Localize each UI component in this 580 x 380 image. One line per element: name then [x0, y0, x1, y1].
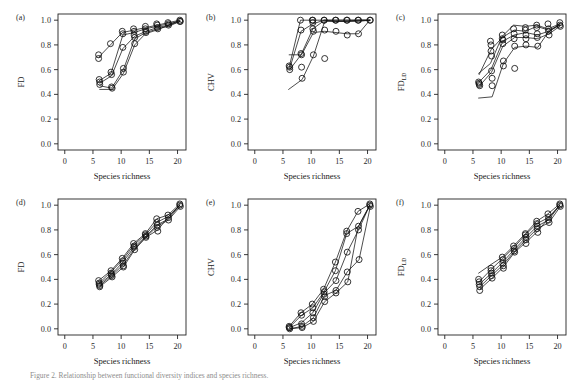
- y-tick-label: 0.2: [421, 115, 431, 124]
- chart-panel-b: (b)0.00.20.40.60.81.005101520Species ric…: [190, 0, 383, 189]
- x-axis-title: Species richness: [284, 171, 341, 181]
- x-axis-title: Species richness: [474, 356, 531, 366]
- y-tick-label: 0.6: [41, 66, 51, 75]
- data-point: [488, 42, 494, 48]
- replicate-line: [289, 20, 370, 55]
- y-tick-label: 1.0: [41, 201, 51, 210]
- x-tick-label: 10: [497, 157, 505, 166]
- x-tick-label: 10: [307, 342, 315, 351]
- data-point: [512, 65, 518, 71]
- y-tick-label: 0.8: [231, 226, 241, 235]
- x-tick-label: 20: [173, 342, 181, 351]
- data-point: [489, 83, 495, 89]
- y-tick-label: 0.4: [41, 275, 51, 284]
- y-axis-title: FD: [16, 77, 26, 88]
- y-tick-label: 0.0: [231, 140, 241, 149]
- y-tick-label: 0.0: [421, 325, 431, 334]
- replicate-line: [290, 206, 371, 328]
- panel-letter: (f): [396, 198, 404, 207]
- replicate-line: [100, 21, 180, 88]
- y-tick-label: 1.0: [41, 16, 51, 25]
- x-tick-label: 15: [525, 157, 533, 166]
- y-tick-label: 0.8: [231, 41, 241, 50]
- x-tick-label: 20: [553, 157, 561, 166]
- y-axis-title: FD: [16, 262, 26, 273]
- x-tick-label: 20: [553, 342, 561, 351]
- y-tick-label: 0.0: [41, 325, 51, 334]
- x-tick-label: 5: [91, 157, 95, 166]
- x-tick-label: 5: [91, 342, 95, 351]
- x-tick-label: 10: [117, 342, 125, 351]
- data-point: [523, 42, 529, 48]
- y-tick-label: 0.0: [231, 325, 241, 334]
- panel-letter: (a): [16, 13, 25, 22]
- data-point: [523, 241, 529, 247]
- y-axis-title: FDLD: [396, 258, 407, 276]
- x-tick-label: 5: [471, 342, 475, 351]
- plot-frame: [438, 199, 566, 335]
- x-tick-label: 20: [173, 157, 181, 166]
- x-tick-label: 15: [145, 157, 153, 166]
- y-tick-label: 0.0: [421, 140, 431, 149]
- data-point: [535, 43, 541, 49]
- y-tick-label: 0.2: [41, 300, 51, 309]
- x-tick-label: 5: [471, 157, 475, 166]
- replicate-line: [480, 26, 560, 85]
- y-tick-label: 0.6: [41, 251, 51, 260]
- x-axis-title: Species richness: [94, 356, 151, 366]
- y-tick-label: 0.4: [231, 90, 241, 99]
- x-axis-title: Species richness: [94, 171, 151, 181]
- y-tick-label: 1.0: [421, 201, 431, 210]
- data-point: [523, 36, 529, 42]
- data-point: [489, 75, 495, 81]
- y-tick-label: 0.4: [41, 90, 51, 99]
- y-tick-label: 0.4: [231, 275, 241, 284]
- y-tick-label: 0.8: [421, 226, 431, 235]
- y-tick-label: 1.0: [231, 201, 241, 210]
- replicate-line: [289, 204, 370, 326]
- x-tick-label: 15: [335, 157, 343, 166]
- x-tick-label: 0: [253, 157, 257, 166]
- y-tick-label: 0.8: [41, 41, 51, 50]
- chart-panel-e: (e)0.00.20.40.60.81.005101520Species ric…: [190, 185, 383, 374]
- x-axis-title: Species richness: [474, 171, 531, 181]
- y-tick-label: 0.4: [421, 275, 431, 284]
- data-point: [333, 28, 339, 34]
- x-tick-label: 10: [497, 342, 505, 351]
- y-tick-label: 0.0: [41, 140, 51, 149]
- data-point: [512, 43, 518, 49]
- y-tick-label: 0.4: [421, 90, 431, 99]
- y-tick-label: 0.2: [421, 300, 431, 309]
- y-tick-label: 1.0: [421, 16, 431, 25]
- x-tick-label: 0: [253, 342, 257, 351]
- y-tick-label: 0.2: [41, 115, 51, 124]
- y-tick-label: 1.0: [231, 16, 241, 25]
- data-point: [535, 229, 541, 235]
- x-tick-label: 15: [335, 342, 343, 351]
- y-axis-title: CHV: [206, 72, 216, 91]
- x-axis-title: Species richness: [284, 356, 341, 366]
- x-tick-label: 15: [525, 342, 533, 351]
- y-tick-label: 0.2: [231, 115, 241, 124]
- x-tick-label: 0: [63, 342, 67, 351]
- y-tick-label: 0.6: [231, 66, 241, 75]
- y-tick-label: 0.6: [421, 66, 431, 75]
- x-tick-label: 10: [307, 157, 315, 166]
- figure-caption: Figure 2. Relationship between functiona…: [30, 371, 570, 380]
- data-point: [96, 56, 102, 62]
- panel-letter: (b): [206, 13, 216, 22]
- x-tick-label: 5: [281, 342, 285, 351]
- panel-letter: (e): [206, 198, 215, 207]
- x-tick-label: 20: [363, 342, 371, 351]
- y-tick-label: 0.8: [41, 226, 51, 235]
- data-point: [322, 56, 328, 62]
- y-tick-label: 0.8: [421, 41, 431, 50]
- x-tick-label: 10: [117, 157, 125, 166]
- chart-panel-d: (d)0.00.20.40.60.81.005101520Species ric…: [0, 185, 193, 374]
- data-point: [299, 64, 305, 70]
- x-tick-label: 15: [145, 342, 153, 351]
- panel-letter: (c): [396, 13, 405, 22]
- y-tick-label: 0.2: [231, 300, 241, 309]
- x-tick-label: 0: [63, 157, 67, 166]
